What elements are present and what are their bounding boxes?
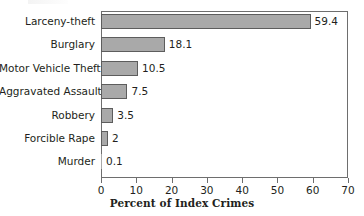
x-tick-label: 60 <box>306 184 319 196</box>
bar-value-label: 59.4 <box>315 15 338 27</box>
scan-artifact <box>28 0 68 4</box>
category-label: Forcible Rape <box>0 132 95 144</box>
category-label: Aggravated Assault <box>0 85 95 97</box>
bar <box>101 131 108 146</box>
x-tick-label: 20 <box>165 184 178 196</box>
x-axis-title: Percent of Index Crimes <box>0 197 364 209</box>
bar-value-label: 0.1 <box>106 155 123 167</box>
bar <box>101 108 113 123</box>
category-label: Robbery <box>0 109 95 121</box>
bar <box>101 14 311 29</box>
bars-layer: 59.418.110.57.53.520.1 <box>101 11 348 178</box>
bar-value-label: 7.5 <box>131 85 148 97</box>
bar <box>101 37 165 52</box>
x-tick-label: 30 <box>200 184 213 196</box>
category-axis-labels: Larceny-theftBurglaryMotor Vehicle Theft… <box>0 11 98 178</box>
x-tick-label: 50 <box>271 184 284 196</box>
x-tick-mark <box>277 178 278 183</box>
x-tick-label: 40 <box>235 184 248 196</box>
x-tick-mark <box>172 178 173 183</box>
bar <box>101 154 102 169</box>
x-tick-mark <box>242 178 243 183</box>
category-label: Murder <box>0 155 95 167</box>
bar-value-label: 2 <box>112 132 119 144</box>
category-label: Motor Vehicle Theft <box>0 62 95 74</box>
x-tick-mark <box>101 178 102 183</box>
x-tick-mark <box>136 178 137 183</box>
bar-value-label: 18.1 <box>169 38 192 50</box>
x-tick-label: 10 <box>130 184 143 196</box>
bar-value-label: 3.5 <box>117 109 134 121</box>
x-tick-label: 0 <box>98 184 105 196</box>
bar <box>101 84 127 99</box>
bar <box>101 61 138 76</box>
x-tick-mark <box>313 178 314 183</box>
x-tick-label: 70 <box>341 184 354 196</box>
bar-chart-figure: Larceny-theftBurglaryMotor Vehicle Theft… <box>0 0 364 216</box>
bar-value-label: 10.5 <box>142 62 165 74</box>
category-label: Larceny-theft <box>0 15 95 27</box>
category-label: Burglary <box>0 38 95 50</box>
x-tick-mark <box>207 178 208 183</box>
x-tick-mark <box>348 178 349 183</box>
